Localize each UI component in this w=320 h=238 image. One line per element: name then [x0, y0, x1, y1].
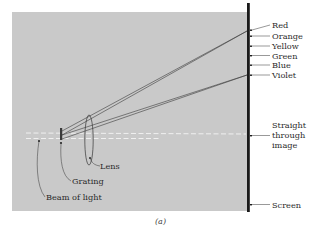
- label-red: Red: [272, 20, 288, 30]
- label-straight: Straight: [272, 120, 307, 130]
- label-beam-of-light: Beam of light: [46, 192, 102, 202]
- label-lens: Lens: [100, 161, 120, 171]
- label-yellow: Yellow: [271, 41, 299, 51]
- label-image: image: [272, 140, 298, 150]
- label-through: through: [272, 130, 306, 140]
- diffraction-grating-diagram: Red Orange Yellow Green Blue Violet Stra…: [0, 0, 320, 238]
- label-grating: Grating: [72, 176, 104, 186]
- label-violet: Violet: [271, 70, 297, 80]
- label-green: Green: [272, 51, 298, 61]
- screen: [247, 3, 250, 212]
- screen-markers: [250, 30, 252, 206]
- figure-caption: (a): [155, 217, 166, 226]
- label-orange: Orange: [272, 31, 303, 41]
- label-blue: Blue: [272, 60, 291, 70]
- label-screen: Screen: [272, 200, 302, 210]
- beam-marker: [38, 140, 40, 142]
- diagram-panel: [12, 12, 248, 211]
- lens-marker: [89, 157, 91, 159]
